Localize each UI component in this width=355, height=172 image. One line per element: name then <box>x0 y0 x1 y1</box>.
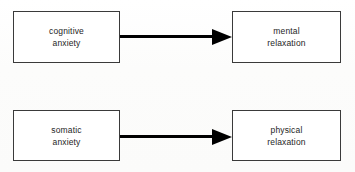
node-label-line-2: anxiety <box>53 136 81 148</box>
arrow-shaft <box>120 35 212 38</box>
node-label-line-1: cognitive <box>49 25 84 37</box>
arrowhead-icon <box>212 129 232 145</box>
node-mental-relaxation: mental relaxation <box>232 11 341 63</box>
arrow-somatic-anxiety-to-physical-relaxation <box>120 129 232 145</box>
node-cognitive-anxiety: cognitive anxiety <box>13 11 120 63</box>
arrow-cognitive-anxiety-to-mental-relaxation <box>120 29 232 45</box>
node-label-line-2: relaxation <box>267 37 305 49</box>
diagram-canvas: cognitive anxiety mental relaxation soma… <box>0 0 355 172</box>
node-label-line-1: somatic <box>51 124 81 136</box>
arrow-shaft <box>120 135 212 138</box>
node-label-line-2: anxiety <box>53 37 81 49</box>
node-label-line-2: relaxation <box>267 136 305 148</box>
node-label-line-1: mental <box>273 25 299 37</box>
node-label-line-1: physical <box>271 124 303 136</box>
node-physical-relaxation: physical relaxation <box>232 110 341 161</box>
node-somatic-anxiety: somatic anxiety <box>13 110 120 161</box>
arrowhead-icon <box>212 29 232 45</box>
